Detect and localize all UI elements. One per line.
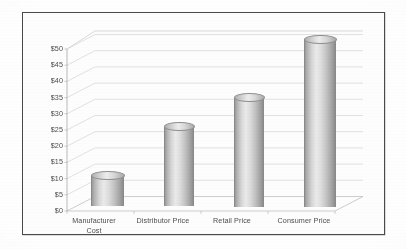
bar-top-ellipse xyxy=(91,171,125,180)
x-tick-retail-price: Retail Price xyxy=(200,216,264,226)
y-tick-10: $10 xyxy=(33,175,63,183)
bar-distributor-price[interactable] xyxy=(164,127,194,207)
bar-top-ellipse xyxy=(234,93,265,102)
y-tick-40: $40 xyxy=(33,77,63,85)
y-tick-20: $20 xyxy=(33,142,63,150)
y-tick-50: $50 xyxy=(33,45,63,53)
y-tick-25: $25 xyxy=(33,126,63,134)
scanned-page: $50 $45 $40 $35 $30 $25 $20 $15 $10 $5 $… xyxy=(0,0,406,249)
y-tick-35: $35 xyxy=(33,94,63,102)
x-tick-line1: Manufacturer xyxy=(61,216,127,226)
y-tick-15: $15 xyxy=(33,158,63,166)
chart-plot-area: $50 $45 $40 $35 $30 $25 $20 $15 $10 $5 $… xyxy=(23,13,386,236)
bar-consumer-price[interactable] xyxy=(304,39,336,207)
x-tick-distributor-price: Distributor Price xyxy=(128,216,198,226)
y-tick-30: $30 xyxy=(33,110,63,118)
bar-body xyxy=(304,39,336,207)
x-tick-consumer-price: Consumer Price xyxy=(268,216,340,226)
bar-body xyxy=(234,98,264,207)
bar-retail-price[interactable] xyxy=(234,98,264,207)
x-tick-line2: Cost xyxy=(61,226,127,236)
bar-top-ellipse xyxy=(304,35,337,44)
x-axis-labels: Manufacturer Cost Distributor Price Reta… xyxy=(23,198,386,236)
y-tick-45: $45 xyxy=(33,61,63,69)
x-tick-manufacturer-cost: Manufacturer Cost xyxy=(61,216,127,235)
chart-frame: $50 $45 $40 $35 $30 $25 $20 $15 $10 $5 $… xyxy=(22,12,385,235)
bar-body xyxy=(164,127,194,207)
